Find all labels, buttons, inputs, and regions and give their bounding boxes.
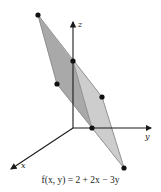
point-left-vertex [54,81,59,86]
point-top-vertex [35,12,40,17]
z-axis-label: z [77,20,83,29]
x-axis-label: x [21,161,26,170]
point-bottom-vertex [121,165,126,170]
plane-graph: z y x [0,0,161,192]
point-right-vertex [99,94,104,99]
point-y-intercept [89,125,94,130]
function-caption: f(x, y) = 2 + 2x − 3y [0,175,161,185]
plane-graph-figure: z y x f(x, y) = 2 + 2x − 3y [0,0,161,192]
y-axis-label: y [144,132,150,141]
point-z-intercept [70,58,75,63]
